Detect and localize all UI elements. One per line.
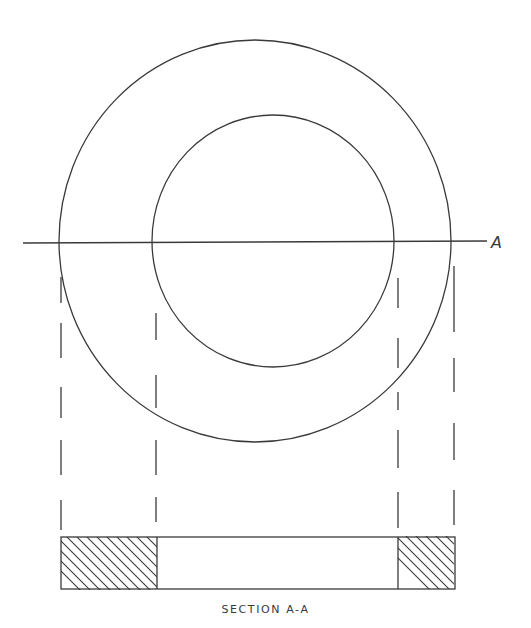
projection-lines bbox=[61, 266, 454, 530]
cutting-plane-label: A bbox=[491, 233, 502, 252]
cutting-plane-line bbox=[23, 241, 487, 243]
hatch-right bbox=[350, 510, 530, 600]
section-outline bbox=[61, 537, 455, 589]
technical-drawing bbox=[0, 0, 531, 628]
section-view bbox=[0, 510, 530, 600]
section-caption: SECTION A-A bbox=[0, 603, 531, 616]
hatch-left bbox=[0, 510, 230, 600]
plan-view bbox=[23, 40, 487, 442]
